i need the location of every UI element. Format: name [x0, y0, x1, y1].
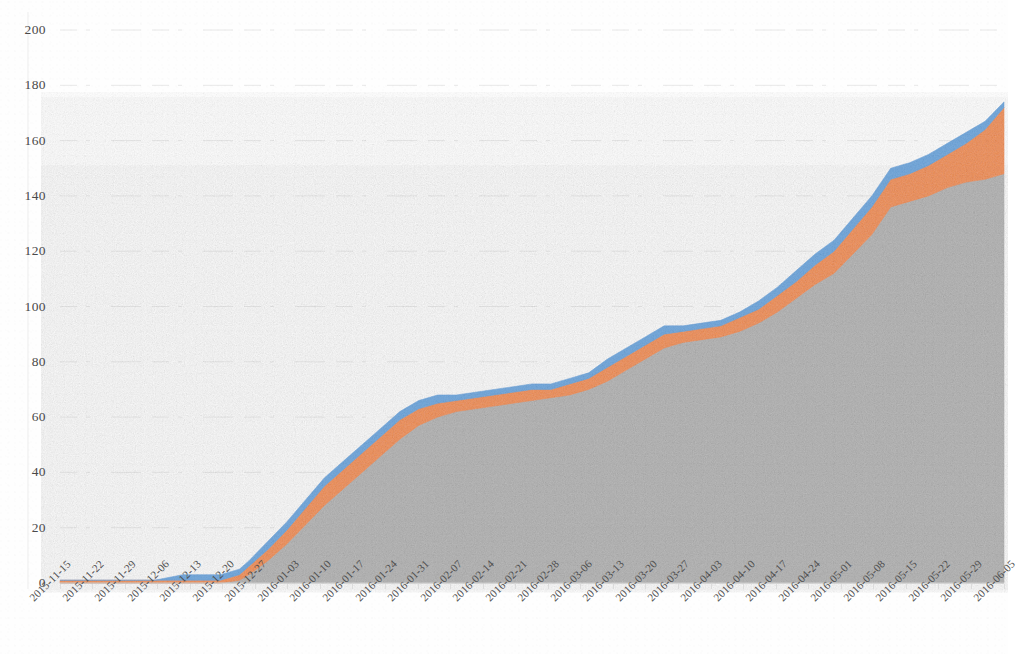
x-axis-tick-mark [678, 584, 679, 589]
y-axis-tick-label: 160 [4, 133, 46, 149]
x-axis-tick-mark [645, 584, 646, 589]
x-axis-tick-mark [938, 584, 939, 589]
x-axis-tick-mark [548, 584, 549, 589]
x-axis-tick-mark [352, 584, 353, 589]
y-axis-tick-label: 80 [4, 354, 46, 370]
y-axis-tick-label: 120 [4, 243, 46, 259]
x-axis-tick-mark [385, 584, 386, 589]
x-axis-tick-mark [157, 584, 158, 589]
x-axis-tick-mark [580, 584, 581, 589]
x-axis-tick-mark [711, 584, 712, 589]
y-axis-tick-label: 180 [4, 77, 46, 93]
y-axis-tick-label: 40 [4, 464, 46, 480]
y-axis-tick-label: 100 [4, 299, 46, 315]
x-axis-tick-mark [255, 584, 256, 589]
x-axis-tick-mark [483, 584, 484, 589]
x-axis-tick-mark [418, 584, 419, 589]
x-axis-tick-mark [287, 584, 288, 589]
x-axis-tick-mark [190, 584, 191, 589]
x-axis-tick-mark [450, 584, 451, 589]
y-axis-tick-label: 140 [4, 188, 46, 204]
y-axis-tick-label: 20 [4, 520, 46, 536]
x-axis-tick-mark [92, 584, 93, 589]
y-axis-tick-label: 200 [4, 22, 46, 38]
x-axis-tick-mark [776, 584, 777, 589]
x-axis-tick-mark [743, 584, 744, 589]
x-axis-tick-mark [320, 584, 321, 589]
x-axis-tick-mark [613, 584, 614, 589]
x-axis-tick-mark [808, 584, 809, 589]
x-axis-tick-mark [1004, 584, 1005, 589]
x-axis-tick-mark [125, 584, 126, 589]
x-axis-tick-mark [873, 584, 874, 589]
x-axis-tick-mark [906, 584, 907, 589]
x-axis-tick-mark [841, 584, 842, 589]
x-axis-tick-mark [60, 584, 61, 589]
x-axis-tick-mark [971, 584, 972, 589]
y-axis-tick-label: 60 [4, 409, 46, 425]
x-axis-tick-mark [515, 584, 516, 589]
x-axis-tick-mark [222, 584, 223, 589]
